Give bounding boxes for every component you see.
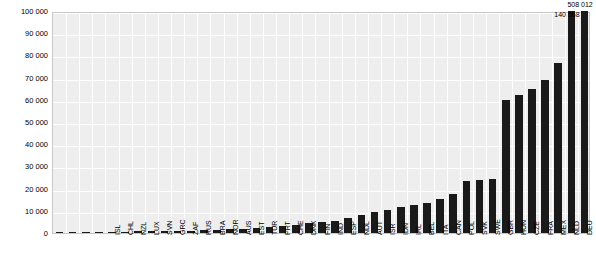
y-tick-label: 80 000 — [2, 52, 48, 60]
bar-isl — [56, 232, 64, 233]
y-tick-label: 50 000 — [2, 119, 48, 127]
x-tick-label-fra: FRA — [547, 221, 554, 235]
y-tick-label: 20 000 — [2, 186, 48, 194]
x-tick-label-isl: ISL — [114, 224, 121, 235]
y-tick-label: 60 000 — [2, 97, 48, 105]
x-tick-label-deu: DEU — [586, 220, 593, 235]
x-tick-label-aut: AUT — [376, 221, 383, 235]
x-tick-label-swe: SWE — [494, 219, 501, 235]
x-tick-label-lux: LUX — [153, 221, 160, 235]
bar-kor — [554, 63, 562, 233]
x-tick-label-bel: BEL — [428, 222, 435, 235]
x-tick-label-isr: ISR — [389, 223, 396, 235]
x-tick-label-nor: NOR — [232, 219, 239, 235]
y-tick-label: 70 000 — [2, 75, 48, 83]
x-tick-label-gbr: GBR — [507, 220, 514, 235]
x-tick-label-nld: NLD — [573, 221, 580, 235]
bar-deu — [528, 89, 536, 233]
bar-chl — [69, 232, 77, 233]
y-tick-label: 100 000 — [2, 8, 48, 16]
bar-usa — [568, 11, 576, 233]
y-tick-label: 10 000 — [2, 208, 48, 216]
x-tick-label-esp: ESP — [350, 221, 357, 235]
bar-nld — [515, 95, 523, 233]
bar-jpn — [541, 80, 549, 233]
x-tick-label-ind: IND — [337, 223, 344, 235]
x-tick-label-pol: POL — [468, 221, 475, 235]
x-tick-label-zaf: ZAF — [192, 222, 199, 235]
annotation-chn: 508 012 — [567, 1, 592, 9]
x-tick-label-hun: HUN — [520, 220, 527, 235]
y-tick-label: 40 000 — [2, 141, 48, 149]
x-tick-label-prt: PRT — [284, 221, 291, 235]
x-tick-label-che: CHE — [297, 220, 304, 235]
x-tick-label-ita: ITA — [442, 225, 449, 235]
x-axis-ticks: ISLCHLNZLLUXSVNGRCZAFRUSBRANORAUSESTTURP… — [52, 234, 590, 261]
bar-nzl — [82, 232, 90, 233]
annotation-usa: 140 568 — [554, 11, 579, 19]
bar-chart: 010 00020 00030 00040 00050 00060 00070 … — [0, 0, 596, 261]
plot-area — [52, 12, 590, 234]
y-tick-label: 30 000 — [2, 163, 48, 171]
x-tick-label-cze: CZE — [533, 221, 540, 235]
bar-lux — [95, 232, 103, 233]
bar-mex — [502, 100, 510, 233]
x-tick-label-svk: SVK — [481, 221, 488, 235]
x-tick-label-est: EST — [258, 221, 265, 235]
x-tick-label-irl: IRL — [415, 224, 422, 235]
x-tick-label-chl: CHL — [127, 221, 134, 235]
x-tick-label-grc: GRC — [179, 219, 186, 235]
x-tick-label-can: CAN — [455, 220, 462, 235]
x-tick-label-fin: FIN — [324, 224, 331, 235]
x-tick-label-ndl: NDL — [363, 221, 370, 235]
x-tick-label-idn: IDN — [402, 223, 409, 235]
x-tick-label-mex: MEX — [560, 220, 567, 235]
y-tick-label: 90 000 — [2, 30, 48, 38]
bar-chn — [581, 11, 589, 233]
x-tick-label-bra: BRA — [219, 221, 226, 235]
y-tick-label: 0 — [2, 230, 48, 238]
x-tick-label-aus: AUS — [245, 221, 252, 235]
x-tick-label-svn: SVN — [166, 221, 173, 235]
x-tick-label-nzl: NZL — [140, 222, 147, 235]
bars-layer — [53, 13, 589, 233]
x-tick-label-rus: RUS — [205, 220, 212, 235]
x-tick-label-dnk: DNK — [310, 220, 317, 235]
x-tick-label-tur: TUR — [271, 221, 278, 235]
